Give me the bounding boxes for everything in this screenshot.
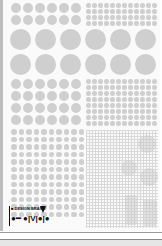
halftone-dot bbox=[41, 129, 47, 135]
halftone-dot bbox=[34, 159, 40, 165]
halftone-dot bbox=[64, 137, 70, 143]
halftone-dot bbox=[79, 182, 85, 188]
halftone-dot bbox=[122, 79, 127, 84]
halftone-dot bbox=[140, 109, 145, 114]
halftone-dot bbox=[86, 121, 91, 126]
halftone-dot bbox=[34, 137, 40, 143]
halftone-dot bbox=[41, 152, 47, 158]
halftone-dot bbox=[11, 144, 17, 150]
halftone-dot bbox=[92, 79, 97, 84]
halftone-dot bbox=[146, 115, 151, 120]
halftone-dot bbox=[23, 115, 33, 125]
halftone-dot bbox=[35, 15, 45, 25]
halftone-dot bbox=[19, 167, 25, 173]
halftone-dot bbox=[35, 91, 45, 101]
halftone-dot bbox=[79, 212, 85, 218]
halftone-dot bbox=[71, 204, 77, 210]
halftone-dot bbox=[35, 115, 45, 125]
halftone-dot bbox=[92, 91, 97, 96]
halftone-dot bbox=[98, 97, 103, 102]
halftone-dot bbox=[64, 144, 70, 150]
halftone-dot bbox=[11, 182, 17, 188]
halftone-dot bbox=[110, 9, 115, 14]
halftone-dot bbox=[56, 212, 62, 218]
halftone-dot bbox=[128, 21, 133, 26]
halftone-dot bbox=[26, 129, 32, 135]
halftone-dot bbox=[146, 9, 151, 14]
halftone-dot bbox=[11, 152, 17, 158]
halftone-dot bbox=[134, 79, 139, 84]
halftone-dot bbox=[49, 144, 55, 150]
halftone-dot bbox=[128, 85, 133, 90]
halftone-dot bbox=[146, 121, 151, 126]
halftone-dot bbox=[146, 85, 151, 90]
logo-triangle-icon bbox=[40, 206, 46, 213]
halftone-dot bbox=[23, 91, 33, 101]
top-right-small-dots bbox=[86, 3, 158, 27]
halftone-dot bbox=[64, 197, 70, 203]
halftone-dot bbox=[92, 121, 97, 126]
halftone-dot bbox=[11, 137, 17, 143]
halftone-dot bbox=[41, 137, 47, 143]
halftone-dot bbox=[152, 21, 157, 26]
halftone-dot bbox=[92, 3, 97, 8]
halftone-dot bbox=[146, 79, 151, 84]
halftone-dot bbox=[59, 103, 69, 113]
halftone-dot bbox=[122, 91, 127, 96]
halftone-dot bbox=[79, 167, 85, 173]
halftone-dot bbox=[116, 97, 121, 102]
halftone-dot bbox=[41, 174, 47, 180]
halftone-dot bbox=[110, 79, 115, 84]
halftone-dot bbox=[19, 144, 25, 150]
halftone-dot bbox=[116, 3, 121, 8]
halftone-dot bbox=[49, 129, 55, 135]
halftone-dot bbox=[71, 3, 81, 13]
halftone-dot bbox=[152, 109, 157, 114]
halftone-dot bbox=[49, 189, 55, 195]
halftone-dot bbox=[86, 15, 91, 20]
halftone-dot bbox=[134, 121, 139, 126]
halftone-dot bbox=[110, 121, 115, 126]
halftone-dot bbox=[34, 174, 40, 180]
halftone-dot bbox=[23, 103, 33, 113]
halftone-dot bbox=[122, 9, 127, 14]
halftone-dot bbox=[11, 129, 17, 135]
halftone-dot bbox=[122, 121, 127, 126]
halftone-dot bbox=[64, 204, 70, 210]
halftone-dot bbox=[19, 182, 25, 188]
halftone-dot bbox=[34, 144, 40, 150]
halftone-dot bbox=[152, 91, 157, 96]
halftone-dot bbox=[11, 103, 21, 113]
halftone-dot bbox=[56, 174, 62, 180]
halftone-dot bbox=[79, 197, 85, 203]
halftone-dot bbox=[140, 115, 145, 120]
halftone-dot bbox=[92, 97, 97, 102]
halftone-dot bbox=[41, 182, 47, 188]
halftone-dot bbox=[104, 115, 109, 120]
halftone-dot bbox=[122, 15, 127, 20]
halftone-dot bbox=[104, 103, 109, 108]
halftone-dot bbox=[146, 103, 151, 108]
halftone-dot bbox=[26, 174, 32, 180]
logo-line2: ●━ ●|V|●|● bbox=[11, 214, 50, 223]
halftone-dot bbox=[116, 121, 121, 126]
halftone-dot bbox=[134, 85, 139, 90]
halftone-dot bbox=[34, 197, 40, 203]
halftone-dot bbox=[35, 29, 56, 50]
bottom-rule bbox=[0, 232, 162, 233]
large-dots bbox=[10, 29, 160, 79]
halftone-dot bbox=[64, 212, 70, 218]
halftone-dot bbox=[64, 159, 70, 165]
halftone-dot bbox=[79, 174, 85, 180]
halftone-dot bbox=[104, 9, 109, 14]
halftone-dot bbox=[86, 79, 91, 84]
halftone-dot bbox=[128, 103, 133, 108]
halftone-dot bbox=[19, 159, 25, 165]
halftone-dot bbox=[85, 54, 106, 75]
halftone-dot bbox=[128, 3, 133, 8]
halftone-dot bbox=[122, 109, 127, 114]
halftone-dot bbox=[19, 189, 25, 195]
halftone-dot bbox=[26, 167, 32, 173]
halftone-dot bbox=[110, 29, 131, 50]
halftone-dot bbox=[71, 197, 77, 203]
